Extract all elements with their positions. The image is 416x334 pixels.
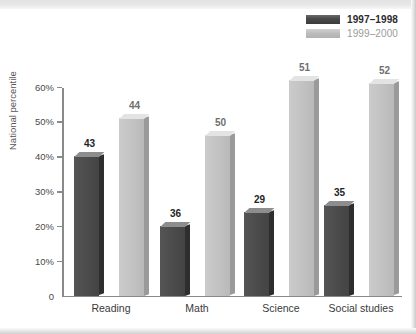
bar-group-math: 3650: [160, 135, 230, 295]
bar-rect: [205, 135, 230, 295]
y-tick-mark: [57, 121, 62, 123]
scan-edge-right: [411, 0, 416, 334]
bar-group-science: 2951: [244, 80, 314, 296]
y-axis-line: [62, 88, 64, 297]
bar-rect: [119, 118, 144, 296]
bar-side-face: [144, 116, 149, 295]
y-tick-label: 50%: [35, 116, 54, 127]
bar-math-1997–1998[interactable]: 36: [160, 226, 185, 296]
y-tick-mark: [57, 226, 62, 228]
x-axis-line: [62, 296, 402, 298]
x-axis-label-math: Math: [185, 302, 208, 314]
plot-area: 010%20%30%40%50%60% 4344365029513552: [62, 80, 402, 297]
bar-science-1999–2000[interactable]: 51: [289, 80, 314, 296]
bar-value-label: 43: [74, 138, 105, 149]
legend-swatch-icon-light: [306, 29, 340, 38]
bar-top-face: [160, 222, 190, 227]
bar-reading-1999–2000[interactable]: 44: [119, 118, 144, 296]
chart-legend: 1997–1998 1999–2000: [306, 14, 398, 39]
x-axis-label-reading: Reading: [91, 302, 130, 314]
legend-label-1999-2000: 1999–2000: [347, 28, 398, 39]
bar-front-face: [324, 205, 349, 296]
bar-side-face: [349, 203, 354, 295]
bar-science-1997–1998[interactable]: 29: [244, 212, 269, 296]
bar-side-face: [269, 210, 274, 295]
bar-front-face: [369, 83, 394, 295]
bar-front-face: [74, 156, 99, 295]
y-axis-title: National percentile: [7, 71, 18, 150]
y-tick-label: 0: [49, 290, 54, 301]
bar-rect: [244, 212, 269, 296]
bar-side-face: [230, 133, 235, 295]
bar-group-reading: 4344: [74, 118, 144, 296]
bar-top-face: [244, 208, 274, 213]
y-tick-mark: [57, 261, 62, 263]
bar-rect: [369, 83, 394, 295]
bar-top-face: [324, 201, 354, 206]
bar-value-label: 29: [244, 194, 275, 205]
bar-value-label: 52: [369, 65, 400, 76]
bar-side-face: [185, 224, 190, 295]
bar-rect: [324, 205, 349, 296]
y-tick-mark: [57, 156, 62, 158]
bar-side-face: [314, 78, 319, 296]
legend-item-1997-1998: 1997–1998: [306, 14, 398, 25]
bar-social-studies-1999–2000[interactable]: 52: [369, 83, 394, 295]
y-tick-label: 20%: [35, 220, 54, 231]
bar-side-face: [394, 81, 399, 295]
bar-value-label: 36: [160, 208, 191, 219]
bar-front-face: [205, 135, 230, 295]
scan-edge-bottom: [0, 328, 416, 334]
bar-front-face: [119, 118, 144, 296]
bar-social-studies-1997–1998[interactable]: 35: [324, 205, 349, 296]
bar-reading-1997–1998[interactable]: 43: [74, 156, 99, 295]
bar-rect: [289, 80, 314, 296]
x-axis-label-science: Science: [262, 302, 299, 314]
y-tick-label: 30%: [35, 186, 54, 197]
y-tick-mark: [57, 87, 62, 89]
bar-value-label: 35: [324, 187, 355, 198]
legend-label-1997-1998: 1997–1998: [347, 14, 398, 25]
bar-top-face: [289, 76, 319, 81]
bar-chart: 1997–1998 1999–2000 National percentile …: [0, 0, 416, 334]
bar-group-social-studies: 3552: [324, 83, 394, 295]
bar-value-label: 44: [119, 100, 150, 111]
bar-rect: [160, 226, 185, 296]
bar-front-face: [160, 226, 185, 296]
bar-side-face: [99, 154, 104, 295]
legend-item-1999-2000: 1999–2000: [306, 28, 398, 39]
bar-top-face: [119, 114, 149, 119]
bar-front-face: [244, 212, 269, 296]
y-tick-label: 10%: [35, 255, 54, 266]
bar-front-face: [289, 80, 314, 296]
y-tick-label: 60%: [35, 81, 54, 92]
x-axis-label-social-studies: Social studies: [329, 302, 394, 314]
bar-value-label: 51: [289, 62, 320, 73]
y-tick-mark: [57, 191, 62, 193]
legend-swatch-icon-dark: [306, 15, 340, 24]
bar-rect: [74, 156, 99, 295]
y-tick-label: 40%: [35, 151, 54, 162]
bar-math-1999–2000[interactable]: 50: [205, 135, 230, 295]
bar-value-label: 50: [205, 117, 236, 128]
